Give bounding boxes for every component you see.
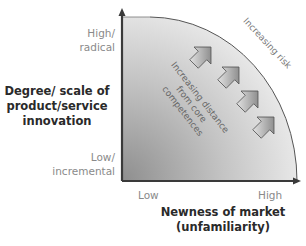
- x-low-label: Low: [138, 188, 159, 202]
- y-title-line3: innovation: [0, 114, 114, 129]
- y-high-line2: radical: [60, 40, 115, 54]
- x-high-label: High: [258, 188, 282, 202]
- x-title-line2: (unfamiliarity): [150, 220, 296, 235]
- y-low-label: Low/ incremental: [40, 150, 115, 178]
- y-axis-title: Degree/ scale of product/service innovat…: [0, 84, 114, 129]
- y-title-line2: product/service: [0, 99, 114, 114]
- x-title-line1: Newness of market: [150, 205, 296, 220]
- y-axis-arrowhead: [119, 8, 126, 16]
- y-low-line1: Low/: [40, 150, 115, 164]
- y-high-line1: High/: [60, 26, 115, 40]
- y-low-line2: incremental: [40, 164, 115, 178]
- y-high-label: High/ radical: [60, 26, 115, 54]
- x-axis-title: Newness of market (unfamiliarity): [150, 205, 296, 235]
- y-title-line1: Degree/ scale of: [0, 84, 114, 99]
